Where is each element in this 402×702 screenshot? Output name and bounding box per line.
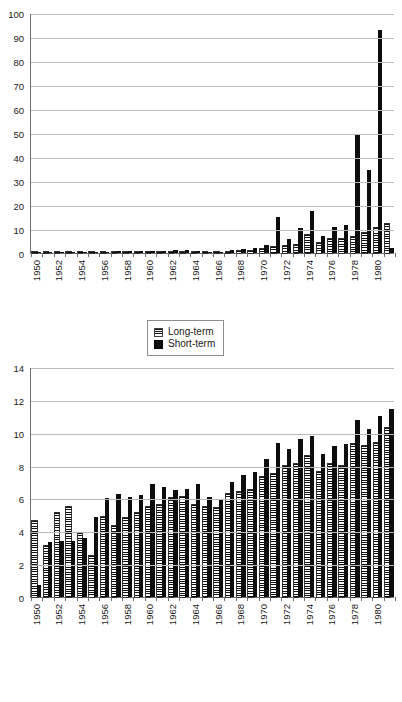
- x-axis-tick: [54, 597, 55, 601]
- bar-group: [293, 368, 304, 597]
- chart-top: 0102030405060708090100 19501952195419561…: [0, 8, 402, 353]
- x-axis-tick-label: 1960: [144, 604, 155, 625]
- x-axis-tick: [88, 253, 89, 257]
- x-axis-tick: [42, 253, 43, 257]
- x-axis-tick: [190, 597, 191, 601]
- bar-group: [145, 368, 156, 597]
- gridline: [31, 368, 394, 369]
- x-axis-tick: [224, 597, 225, 601]
- gridline: [31, 230, 394, 231]
- gridline: [31, 401, 394, 402]
- x-axis-tick: [111, 597, 112, 601]
- x-axis-tick-label: 1972: [281, 260, 292, 281]
- x-axis-tick-label: 1976: [326, 604, 337, 625]
- bar-short-term: [298, 228, 302, 253]
- y-axis-tick-label: 4: [19, 528, 24, 537]
- x-axis-tick-label: 1978: [349, 604, 360, 625]
- y-axis-tick-label: 40: [13, 154, 24, 163]
- x-axis-tick-label: 1980: [372, 260, 383, 281]
- y-axis-tick-label: 6: [19, 495, 24, 504]
- x-axis-ticks-top: [31, 253, 394, 257]
- x-axis-tick: [384, 597, 385, 601]
- bar-short-term: [71, 541, 75, 597]
- bar-group: [304, 368, 315, 597]
- x-axis-tick: [372, 253, 373, 257]
- y-axis-tick-label: 20: [13, 202, 24, 211]
- x-axis-tick: [315, 597, 316, 601]
- bar-short-term: [287, 239, 291, 253]
- bar-group: [384, 368, 395, 597]
- y-axis-tick-label: 12: [13, 396, 24, 405]
- x-axis-tick-label: 1962: [167, 604, 178, 625]
- legend-top: Long-term Short-term: [147, 320, 224, 356]
- bar-group: [247, 368, 258, 597]
- x-axis-tick-label: 1974: [304, 604, 315, 625]
- x-axis-ticks-bottom: [31, 597, 394, 601]
- y-axis-tick-label: 2: [19, 561, 24, 570]
- x-axis-tick-label: 1956: [99, 260, 110, 281]
- gridline: [31, 206, 394, 207]
- gridline: [31, 499, 394, 500]
- bar-short-term: [389, 409, 393, 597]
- x-axis-tick-label: 1956: [99, 604, 110, 625]
- x-axis-tick: [236, 253, 237, 257]
- bar-group: [372, 368, 383, 597]
- x-axis-tick: [99, 597, 100, 601]
- bar-short-term: [48, 542, 52, 597]
- bar-short-term: [298, 439, 302, 597]
- bar-short-term: [207, 497, 211, 597]
- gridline: [31, 565, 394, 566]
- x-axis-tick: [247, 597, 248, 601]
- x-axis-tick: [270, 597, 271, 601]
- bar-short-term: [378, 30, 382, 253]
- x-axis-tick: [65, 597, 66, 601]
- bar-short-term: [59, 541, 63, 597]
- gridline: [31, 532, 394, 533]
- x-axis-tick: [133, 597, 134, 601]
- x-axis-tick: [31, 597, 32, 601]
- bar-group: [236, 368, 247, 597]
- x-axis-tick: [304, 597, 305, 601]
- x-axis-tick: [372, 597, 373, 601]
- x-axis-tick: [315, 253, 316, 257]
- x-axis-tick-label: 1964: [190, 604, 201, 625]
- x-axis-tick: [156, 253, 157, 257]
- x-axis-tick: [384, 253, 385, 257]
- x-axis-tick-label: 1968: [235, 604, 246, 625]
- x-axis-tick: [65, 253, 66, 257]
- bar-short-term: [310, 211, 314, 253]
- x-axis-tick: [350, 253, 351, 257]
- x-axis-tick: [54, 253, 55, 257]
- x-axis-tick-label: 1964: [190, 260, 201, 281]
- x-axis-tick: [259, 597, 260, 601]
- bar-short-term: [196, 484, 200, 597]
- x-axis-tick: [99, 253, 100, 257]
- x-axis-tick: [179, 253, 180, 257]
- x-axis-tick-label: 1966: [213, 604, 224, 625]
- x-axis-tick-label: 1950: [31, 260, 42, 281]
- bar-group: [259, 368, 270, 597]
- x-axis-tick: [122, 253, 123, 257]
- x-axis-tick: [224, 253, 225, 257]
- x-axis-tick: [338, 597, 339, 601]
- x-axis-tick-label: 1970: [258, 604, 269, 625]
- gridline: [31, 86, 394, 87]
- x-axis-tick-label: 1968: [235, 260, 246, 281]
- x-axis-tick-label: 1960: [144, 260, 155, 281]
- x-axis-tick-label: 1962: [167, 260, 178, 281]
- x-axis-tick: [247, 253, 248, 257]
- x-axis-tick: [213, 597, 214, 601]
- x-axis-tick: [77, 597, 78, 601]
- gridline: [31, 38, 394, 39]
- x-axis-tick: [281, 253, 282, 257]
- y-axis-tick-label: 8: [19, 462, 24, 471]
- x-axis-tick: [259, 253, 260, 257]
- bar-group: [42, 368, 53, 597]
- x-axis-tick: [122, 597, 123, 601]
- y-axis-tick-label: 0: [19, 594, 24, 603]
- bar-group: [338, 368, 349, 597]
- x-axis-tick: [77, 253, 78, 257]
- y-axis-tick-label: 50: [13, 130, 24, 139]
- long-term-swatch-icon: [154, 328, 163, 337]
- x-axis-tick: [168, 597, 169, 601]
